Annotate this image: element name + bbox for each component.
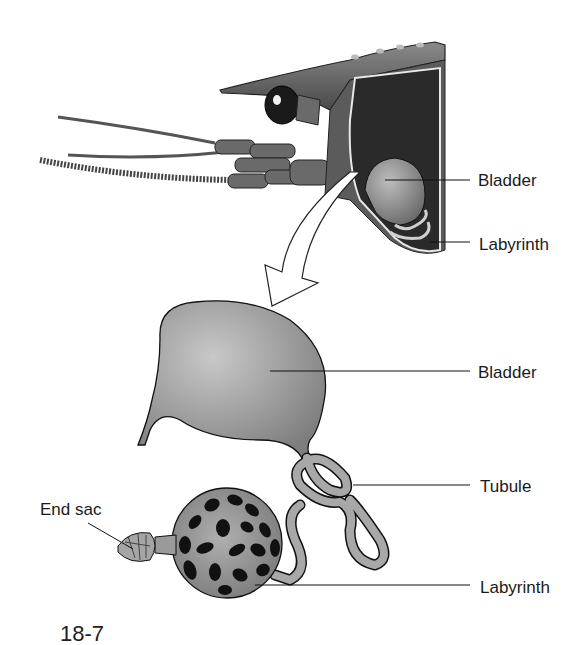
label-end-sac: End sac [40, 501, 101, 518]
enlarged-gland-illustration [88, 301, 470, 598]
label-labyrinth-top: Labyrinth [479, 236, 549, 253]
label-tubule: Tubule [480, 478, 531, 495]
head-illustration [40, 42, 470, 253]
label-bladder-top: Bladder [478, 172, 537, 189]
leader-line-end-sac [88, 523, 133, 549]
label-labyrinth-bottom: Labyrinth [480, 579, 550, 596]
label-bladder-bottom: Bladder [478, 364, 537, 381]
figure-caption-fragment: 18-7 [60, 621, 104, 645]
